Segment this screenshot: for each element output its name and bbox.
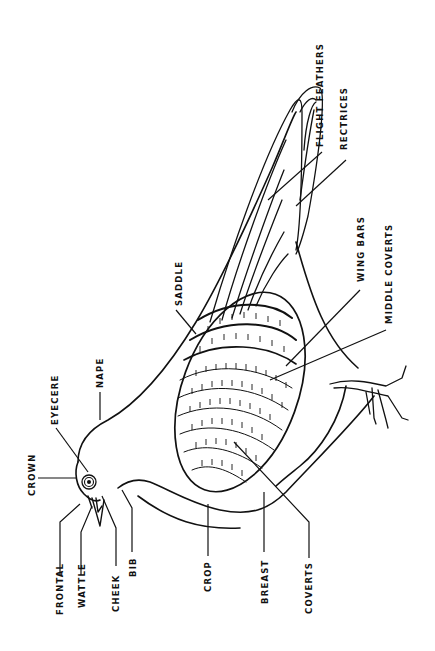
label-nape: NAPE xyxy=(95,357,105,388)
label-crown: CROWN xyxy=(27,454,37,497)
label-cheek: CHEEK xyxy=(111,574,121,612)
pigeon-anatomy-diagram: CROWN EYECERE NAPE SADDLE FLIGHT FEATHER… xyxy=(0,0,435,651)
label-breast: BREAST xyxy=(260,559,270,604)
eye xyxy=(82,475,96,489)
label-middle-coverts: MIDDLE COVERTS xyxy=(384,224,394,324)
leg-and-foot xyxy=(330,366,408,428)
flight-feathers xyxy=(210,87,322,322)
leader-lines xyxy=(38,152,386,575)
label-rectrices: RECTRICES xyxy=(339,87,349,150)
label-coverts: COVERTS xyxy=(304,562,314,614)
label-saddle: SADDLE xyxy=(174,261,184,306)
bird-outline xyxy=(76,112,374,528)
label-crop: CROP xyxy=(203,561,213,592)
label-bib: BIB xyxy=(128,557,138,577)
label-wing-bars: WING BARS xyxy=(356,216,366,282)
label-wattle: WATTLE xyxy=(77,563,87,608)
label-eyecere: EYECERE xyxy=(50,374,60,425)
label-frontal: FRONTAL xyxy=(55,563,65,615)
label-flight-feathers: FLIGHT FEATHERS xyxy=(315,43,325,147)
